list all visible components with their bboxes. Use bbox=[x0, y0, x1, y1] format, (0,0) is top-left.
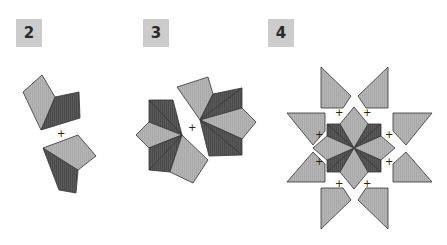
panel-4-figure: + + + + + + + + bbox=[287, 67, 432, 229]
panel-3-figure: + bbox=[136, 77, 256, 183]
panel-2-figure: + bbox=[23, 75, 96, 193]
center-marker: + bbox=[188, 122, 196, 133]
diagram-canvas: + + bbox=[0, 0, 447, 245]
marker: + bbox=[335, 178, 343, 189]
marker: + bbox=[335, 107, 343, 118]
center-marker: + bbox=[57, 128, 65, 139]
marker: + bbox=[315, 156, 323, 167]
marker: + bbox=[385, 129, 393, 140]
marker: + bbox=[363, 107, 371, 118]
marker: + bbox=[363, 178, 371, 189]
marker: + bbox=[385, 156, 393, 167]
marker: + bbox=[315, 129, 323, 140]
